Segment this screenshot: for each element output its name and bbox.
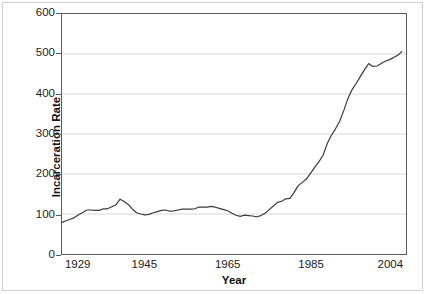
x-tick-label: 1929 — [65, 259, 91, 271]
y-tick-label: 600 — [7, 7, 55, 19]
incarceration-rate-chart: Incarceration Rate 0100200300400500600 1… — [0, 0, 426, 294]
y-tick-mark — [56, 13, 61, 14]
series-path — [62, 52, 402, 223]
y-tick-label: 100 — [7, 209, 55, 221]
y-tick-label: 500 — [7, 48, 55, 60]
x-tick-label: 1965 — [215, 259, 241, 271]
y-tick-label: 0 — [7, 249, 55, 261]
y-tick-mark — [56, 134, 61, 135]
data-series-line — [62, 14, 406, 254]
x-tick-label: 2004 — [378, 259, 404, 271]
y-tick-mark — [56, 255, 61, 256]
y-tick-mark — [56, 53, 61, 54]
y-tick-label: 200 — [7, 169, 55, 181]
y-tick-mark — [56, 215, 61, 216]
y-tick-mark — [56, 94, 61, 95]
plot-area — [61, 13, 407, 255]
y-tick-label: 400 — [7, 88, 55, 100]
y-tick-mark — [56, 174, 61, 175]
x-axis-title: Year — [61, 274, 407, 286]
x-tick-label: 1985 — [298, 259, 324, 271]
x-tick-label: 1945 — [132, 259, 158, 271]
y-tick-label: 300 — [7, 128, 55, 140]
